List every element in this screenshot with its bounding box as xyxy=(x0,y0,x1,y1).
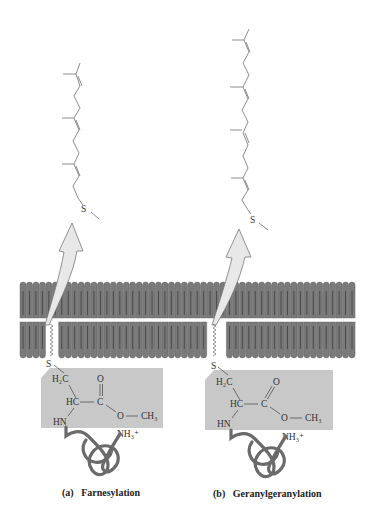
hc-label: HC xyxy=(66,397,79,407)
carbonyl-c-label: C xyxy=(97,397,103,407)
carbonyl-o-label: O xyxy=(273,377,280,387)
prenylation-figure: S S H₂C HC C O O CH₃ HN NH₃⁺ xyxy=(0,0,367,517)
sulfur-label-top: S xyxy=(81,204,86,214)
h2c-label: H₂C xyxy=(216,377,233,387)
sulfur-label-top: S xyxy=(250,215,255,225)
ester-o-label: O xyxy=(281,413,288,423)
geranylgeranyl-methyls xyxy=(230,40,250,190)
caption-a-text: Farnesylation xyxy=(81,487,140,498)
lipid-bilayer xyxy=(20,282,355,358)
sulfur-label-bottom: S xyxy=(46,359,51,369)
farnesyl-methyls xyxy=(62,74,82,176)
panel-b-geranylgeranylation: S S H₂C HC C O O CH₃ HN NH₃⁺ xyxy=(205,29,333,477)
methyl-label: CH₃ xyxy=(305,413,322,423)
sulfur-label-bottom: S xyxy=(211,361,216,371)
hn-label: HN xyxy=(217,419,231,429)
panel-a-farnesylation: S S H₂C HC C O O CH₃ HN NH₃⁺ xyxy=(41,63,163,475)
carbonyl-o-label: O xyxy=(97,374,104,384)
ester-o-label: O xyxy=(117,411,124,421)
zigzag-anchor xyxy=(213,324,216,356)
caption-b-letter: (b) xyxy=(213,488,225,499)
geranylgeranyl-chain xyxy=(242,29,251,214)
methyl-label: CH₃ xyxy=(141,411,158,421)
carbonyl-c-label: C xyxy=(261,399,267,409)
hc-label: HC xyxy=(230,399,243,409)
zigzag-anchor xyxy=(50,324,53,356)
caption-b-text: Geranylgeranylation xyxy=(233,488,322,499)
caption-b: (b) Geranylgeranylation xyxy=(213,488,322,499)
diagram-canvas: S S H₂C HC C O O CH₃ HN NH₃⁺ xyxy=(0,0,367,517)
caption-a: (a) Farnesylation xyxy=(62,487,140,498)
caption-a-letter: (a) xyxy=(62,487,74,498)
h2c-label: H₂C xyxy=(52,374,69,384)
hn-label: HN xyxy=(53,417,67,427)
